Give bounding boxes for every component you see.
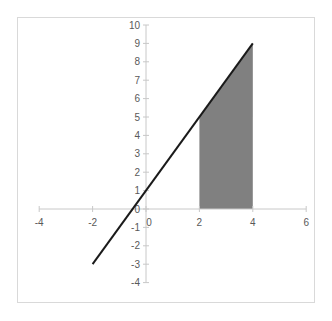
- plot-area: -4-20246 -4-3-2-1012345678910: [0, 0, 332, 321]
- x-tick-label: -2: [88, 217, 97, 228]
- shaded-area: [199, 43, 252, 209]
- y-tick-label: 8: [134, 56, 140, 67]
- y-tick-label: -4: [131, 277, 140, 288]
- y-tick-label: 6: [134, 93, 140, 104]
- y-tick-label: 10: [129, 20, 141, 31]
- y-tick-label: 2: [134, 167, 140, 178]
- x-tick-label: 0: [146, 217, 152, 228]
- y-tick-label: -1: [131, 222, 140, 233]
- y-tick-label: 3: [134, 148, 140, 159]
- y-tick-label: 7: [134, 75, 140, 86]
- y-tick-label: 9: [134, 38, 140, 49]
- x-tick-label: 6: [303, 217, 309, 228]
- y-tick-label: 1: [134, 185, 140, 196]
- y-tick-label: -2: [131, 240, 140, 251]
- x-tick-label: 2: [197, 217, 203, 228]
- y-tick-label: 4: [134, 130, 140, 141]
- y-tick-label: -3: [131, 259, 140, 270]
- y-tick-label: 5: [134, 112, 140, 123]
- x-tick-label: -4: [35, 217, 44, 228]
- x-tick-label: 4: [250, 217, 256, 228]
